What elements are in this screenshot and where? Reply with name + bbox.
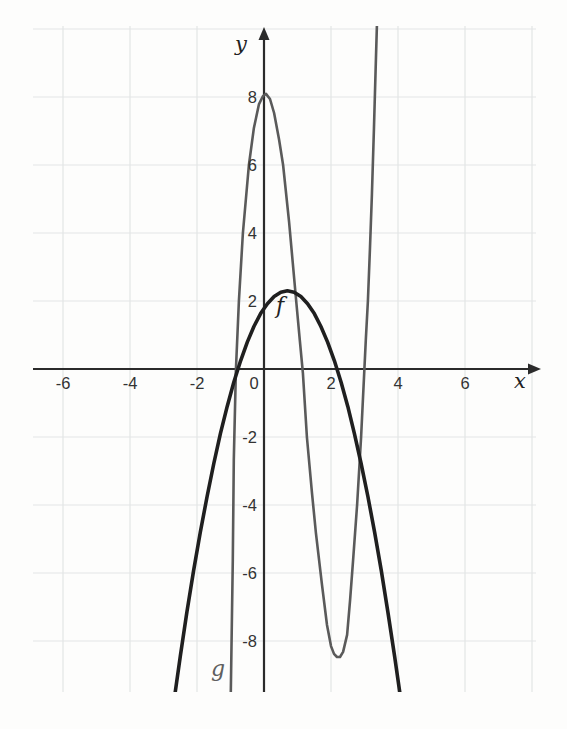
- y-tick-label: -2: [242, 428, 257, 446]
- y-tick-label: 4: [248, 224, 257, 242]
- x-tick-label: 2: [326, 374, 335, 392]
- y-tick-label: 6: [248, 156, 257, 174]
- y-tick-label: -4: [242, 496, 257, 514]
- x-tick-label: 0: [249, 374, 258, 392]
- grid: [33, 26, 536, 692]
- y-tick-label: 2: [248, 292, 257, 310]
- y-axis-label: y: [234, 32, 248, 56]
- y-tick-label: 8: [248, 88, 257, 106]
- x-tick-label: -4: [123, 374, 138, 392]
- x-tick-label: 4: [393, 374, 402, 392]
- x-tick-label: -6: [56, 374, 71, 392]
- x-tick-label: 6: [460, 374, 469, 392]
- y-tick-label: -8: [242, 632, 257, 650]
- scanned-graph-page: -6-4-202468642-2-4-6-8xygf: [0, 0, 567, 729]
- x-axis-label: x: [514, 369, 526, 393]
- curves: [174, 26, 402, 704]
- curve-g: [231, 26, 377, 692]
- x-axis-arrow-icon: [528, 364, 541, 375]
- function-graph-canvas: -6-4-202468642-2-4-6-8xygf: [0, 0, 567, 729]
- curve-label-g: g: [211, 656, 225, 681]
- y-tick-label: -6: [242, 564, 257, 582]
- x-tick-label: -2: [190, 374, 205, 392]
- curve-f: [174, 291, 402, 704]
- curve-label-f: f: [274, 293, 288, 318]
